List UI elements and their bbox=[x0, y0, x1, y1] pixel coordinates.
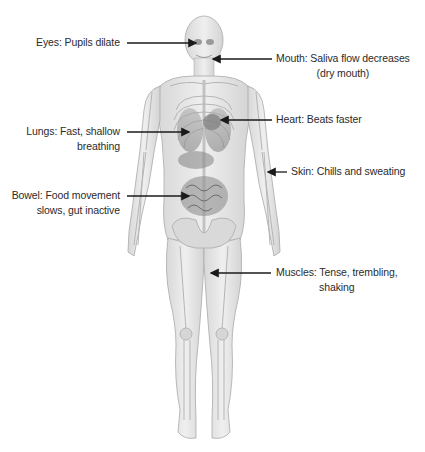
callout-eyes: Eyes: Pupils dilate bbox=[36, 35, 120, 50]
callout-lungs-text-2: breathing bbox=[24, 139, 120, 154]
head bbox=[185, 16, 223, 64]
callout-bowel: Bowel: Food movement slows, gut inactive bbox=[10, 188, 120, 218]
callout-bowel-text: Bowel: Food movement bbox=[10, 188, 120, 203]
callout-lungs-text: Lungs: Fast, shallow bbox=[24, 124, 120, 139]
lungs-organ bbox=[177, 108, 203, 152]
heart-organ bbox=[203, 114, 221, 130]
callout-heart-text: Heart: Beats faster bbox=[276, 112, 362, 127]
callout-muscles-text: Muscles: Tense, trembling, bbox=[276, 265, 398, 280]
callout-bowel-text-2: slows, gut inactive bbox=[10, 203, 120, 218]
callout-skin-text: Skin: Chills and sweating bbox=[291, 164, 405, 179]
callout-eyes-text: Eyes: Pupils dilate bbox=[36, 35, 120, 50]
callout-mouth: Mouth: Saliva flow decreases (dry mouth) bbox=[276, 51, 410, 81]
callout-mouth-text: Mouth: Saliva flow decreases bbox=[276, 51, 410, 66]
callout-skin: Skin: Chills and sweating bbox=[291, 164, 405, 179]
callout-heart: Heart: Beats faster bbox=[276, 112, 362, 127]
callout-muscles-text-2: shaking bbox=[276, 280, 398, 295]
neck bbox=[194, 58, 214, 78]
liver-organ bbox=[178, 151, 214, 169]
callout-muscles: Muscles: Tense, trembling, shaking bbox=[276, 265, 398, 295]
callout-lungs: Lungs: Fast, shallow breathing bbox=[24, 124, 120, 154]
callout-mouth-text-2: (dry mouth) bbox=[276, 66, 410, 81]
